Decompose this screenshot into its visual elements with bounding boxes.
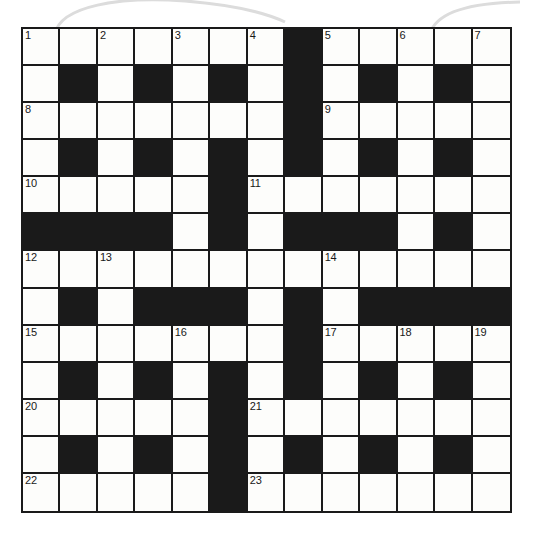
letter-cell[interactable] xyxy=(435,474,472,511)
letter-cell[interactable] xyxy=(473,66,510,103)
letter-cell[interactable] xyxy=(435,326,472,363)
letter-cell[interactable] xyxy=(473,474,510,511)
letter-cell[interactable] xyxy=(210,326,247,363)
letter-cell[interactable] xyxy=(248,214,285,251)
letter-cell[interactable] xyxy=(60,251,97,288)
letter-cell[interactable] xyxy=(248,326,285,363)
letter-cell[interactable] xyxy=(210,29,247,66)
letter-cell[interactable] xyxy=(23,140,60,177)
letter-cell[interactable] xyxy=(435,400,472,437)
letter-cell[interactable] xyxy=(23,437,60,474)
letter-cell[interactable] xyxy=(473,251,510,288)
letter-cell[interactable] xyxy=(473,437,510,474)
letter-cell[interactable] xyxy=(23,66,60,103)
letter-cell[interactable] xyxy=(135,29,172,66)
letter-cell[interactable] xyxy=(60,400,97,437)
letter-cell[interactable] xyxy=(135,474,172,511)
letter-cell[interactable]: 18 xyxy=(398,326,435,363)
letter-cell[interactable]: 1 xyxy=(23,29,60,66)
letter-cell[interactable]: 23 xyxy=(248,474,285,511)
letter-cell[interactable] xyxy=(98,400,135,437)
letter-cell[interactable]: 19 xyxy=(473,326,510,363)
letter-cell[interactable] xyxy=(248,103,285,140)
letter-cell[interactable]: 6 xyxy=(398,29,435,66)
letter-cell[interactable]: 22 xyxy=(23,474,60,511)
letter-cell[interactable]: 4 xyxy=(248,29,285,66)
letter-cell[interactable]: 2 xyxy=(98,29,135,66)
letter-cell[interactable]: 13 xyxy=(98,251,135,288)
letter-cell[interactable] xyxy=(98,140,135,177)
letter-cell[interactable] xyxy=(323,437,360,474)
letter-cell[interactable] xyxy=(360,103,397,140)
letter-cell[interactable] xyxy=(360,29,397,66)
letter-cell[interactable] xyxy=(98,437,135,474)
letter-cell[interactable]: 16 xyxy=(173,326,210,363)
letter-cell[interactable] xyxy=(285,400,322,437)
letter-cell[interactable] xyxy=(23,289,60,326)
letter-cell[interactable] xyxy=(473,363,510,400)
letter-cell[interactable] xyxy=(360,251,397,288)
letter-cell[interactable] xyxy=(248,140,285,177)
letter-cell[interactable] xyxy=(398,177,435,214)
letter-cell[interactable] xyxy=(248,437,285,474)
letter-cell[interactable] xyxy=(398,400,435,437)
letter-cell[interactable] xyxy=(135,326,172,363)
letter-cell[interactable] xyxy=(473,140,510,177)
letter-cell[interactable] xyxy=(398,437,435,474)
letter-cell[interactable]: 8 xyxy=(23,103,60,140)
letter-cell[interactable]: 9 xyxy=(323,103,360,140)
letter-cell[interactable] xyxy=(98,177,135,214)
letter-cell[interactable] xyxy=(360,400,397,437)
letter-cell[interactable]: 12 xyxy=(23,251,60,288)
letter-cell[interactable]: 21 xyxy=(248,400,285,437)
letter-cell[interactable] xyxy=(435,251,472,288)
letter-cell[interactable] xyxy=(173,140,210,177)
letter-cell[interactable] xyxy=(285,177,322,214)
letter-cell[interactable] xyxy=(173,214,210,251)
letter-cell[interactable] xyxy=(398,474,435,511)
letter-cell[interactable]: 14 xyxy=(323,251,360,288)
letter-cell[interactable] xyxy=(473,177,510,214)
letter-cell[interactable] xyxy=(60,474,97,511)
letter-cell[interactable] xyxy=(210,251,247,288)
letter-cell[interactable]: 3 xyxy=(173,29,210,66)
letter-cell[interactable]: 20 xyxy=(23,400,60,437)
letter-cell[interactable] xyxy=(98,326,135,363)
letter-cell[interactable] xyxy=(323,66,360,103)
letter-cell[interactable] xyxy=(173,66,210,103)
letter-cell[interactable] xyxy=(398,363,435,400)
letter-cell[interactable] xyxy=(248,363,285,400)
letter-cell[interactable]: 7 xyxy=(473,29,510,66)
letter-cell[interactable] xyxy=(60,29,97,66)
letter-cell[interactable] xyxy=(323,363,360,400)
letter-cell[interactable] xyxy=(98,66,135,103)
letter-cell[interactable] xyxy=(135,400,172,437)
letter-cell[interactable] xyxy=(473,103,510,140)
letter-cell[interactable]: 17 xyxy=(323,326,360,363)
letter-cell[interactable] xyxy=(173,103,210,140)
letter-cell[interactable] xyxy=(398,214,435,251)
letter-cell[interactable] xyxy=(173,251,210,288)
letter-cell[interactable] xyxy=(135,103,172,140)
letter-cell[interactable] xyxy=(398,140,435,177)
letter-cell[interactable] xyxy=(285,474,322,511)
letter-cell[interactable] xyxy=(360,474,397,511)
letter-cell[interactable] xyxy=(135,177,172,214)
letter-cell[interactable] xyxy=(210,103,247,140)
letter-cell[interactable] xyxy=(435,177,472,214)
letter-cell[interactable] xyxy=(23,363,60,400)
letter-cell[interactable] xyxy=(173,177,210,214)
letter-cell[interactable] xyxy=(435,103,472,140)
letter-cell[interactable]: 15 xyxy=(23,326,60,363)
letter-cell[interactable] xyxy=(435,29,472,66)
letter-cell[interactable] xyxy=(248,289,285,326)
letter-cell[interactable] xyxy=(323,289,360,326)
letter-cell[interactable]: 11 xyxy=(248,177,285,214)
letter-cell[interactable] xyxy=(173,474,210,511)
letter-cell[interactable] xyxy=(135,251,172,288)
crossword-grid[interactable]: 1234567891011121314151617181920212223 xyxy=(21,27,512,513)
letter-cell[interactable] xyxy=(60,103,97,140)
letter-cell[interactable] xyxy=(173,363,210,400)
letter-cell[interactable] xyxy=(60,326,97,363)
letter-cell[interactable] xyxy=(323,177,360,214)
